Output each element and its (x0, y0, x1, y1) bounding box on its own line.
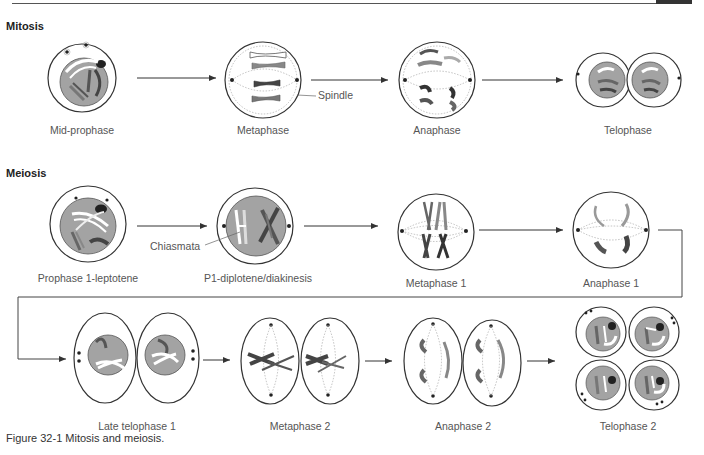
callout-chiasmata: Chiasmata (150, 240, 200, 252)
figure-caption: Figure 32-1 Mitosis and meiosis. (6, 432, 164, 444)
stage-label-prophase1-leptotene: Prophase 1-leptotene (38, 272, 138, 284)
stage-label-metaphase: Metaphase (237, 124, 289, 136)
stage-label-anaphase: Anaphase (413, 124, 460, 136)
cell-prophase1-leptotene (50, 186, 126, 262)
cell-anaphase2 (404, 318, 521, 406)
cell-anaphase1 (573, 192, 649, 268)
stage-label-metaphase2: Metaphase 2 (270, 420, 331, 432)
stage-label-metaphase1: Metaphase 1 (406, 277, 467, 289)
cell-telophase2 (576, 307, 679, 410)
stage-label-telophase2: Telophase 2 (600, 420, 657, 432)
stage-label-mid-prophase: Mid-prophase (50, 124, 114, 136)
cell-mid-prophase (48, 42, 116, 112)
cell-telophase (576, 53, 681, 107)
stage-label-p1-diplotene: P1-diplotene/diakinesis (204, 272, 312, 284)
stage-label-anaphase2: Anaphase 2 (435, 420, 491, 432)
cell-metaphase2 (241, 318, 359, 404)
cell-p1-diplotene-diakinesis (217, 188, 293, 264)
stage-label-anaphase1: Anaphase 1 (583, 277, 639, 289)
cell-division-diagram (0, 0, 704, 455)
stage-label-late-telophase1: Late telophase 1 (98, 420, 176, 432)
callout-spindle: Spindle (318, 89, 353, 101)
cell-anaphase (399, 42, 475, 118)
cell-late-telophase1 (74, 313, 199, 403)
stage-label-telophase: Telophase (604, 124, 652, 136)
cell-metaphase (225, 42, 301, 118)
cell-metaphase1 (398, 194, 474, 270)
